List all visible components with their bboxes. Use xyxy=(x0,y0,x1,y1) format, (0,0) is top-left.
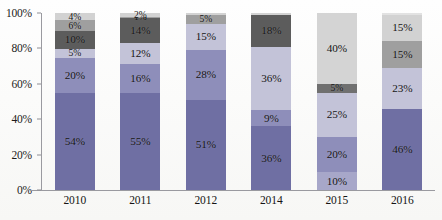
y-tick-mark xyxy=(37,154,41,155)
bar-stack: 51%28%15%5% xyxy=(186,13,226,190)
bar-segment-label: 12% xyxy=(130,48,150,59)
y-tick-label: 40% xyxy=(12,113,32,125)
bar-segment[interactable]: 54% xyxy=(55,93,95,190)
bar-segment[interactable]: 25% xyxy=(317,93,357,137)
y-tick-mark xyxy=(37,83,41,84)
y-tick-mark xyxy=(37,190,41,191)
bar-segment-label: 36% xyxy=(261,73,281,84)
y-tick-mark xyxy=(37,119,41,120)
bar-segment[interactable]: 15% xyxy=(382,41,422,68)
bar-segment[interactable]: 23% xyxy=(382,68,422,109)
bar-segment[interactable]: 9% xyxy=(251,110,291,126)
bar-column[interactable]: 54%20%5%10%6%4% xyxy=(55,13,95,190)
stacked-bar-chart: 0%20%40%60%80%100% 54%20%5%10%6%4%55%16%… xyxy=(0,0,442,220)
bar-segment-label: 20% xyxy=(65,70,85,81)
bar-segment-label: 55% xyxy=(130,136,150,147)
x-tick-label-2016: 2016 xyxy=(370,194,436,206)
x-tick-label-2014: 2014 xyxy=(239,194,305,206)
bar-segment-label: 14% xyxy=(130,25,150,36)
bar-stack: 55%16%12%14%1%2% xyxy=(120,13,160,190)
bar-stack: 36%9%36%18% xyxy=(251,13,291,190)
bar-column[interactable]: 55%16%12%14%1%2% xyxy=(120,13,160,190)
bar-segment[interactable]: 40% xyxy=(317,13,357,84)
bar-segment-label: 54% xyxy=(65,136,85,147)
bar-segment[interactable]: 5% xyxy=(55,49,95,58)
y-axis: 0%20%40%60%80%100% xyxy=(0,0,38,220)
x-tick-label-2012: 2012 xyxy=(173,194,239,206)
y-tick-mark xyxy=(37,48,41,49)
bar-segment-label: 5% xyxy=(330,83,343,93)
bar-segment[interactable]: 55% xyxy=(120,93,160,190)
bar-segment-label: 5% xyxy=(199,14,212,24)
bar-stack: 46%23%15%15% xyxy=(382,13,422,190)
bar-segment-label: 5% xyxy=(68,48,81,58)
bar-segment[interactable] xyxy=(382,13,422,15)
bar-segment-label: 28% xyxy=(196,69,216,80)
y-tick-label: 80% xyxy=(12,42,32,54)
bar-segment[interactable]: 28% xyxy=(186,50,226,100)
bar-segment[interactable]: 2% xyxy=(120,13,160,17)
bar-segment[interactable]: 51% xyxy=(186,100,226,190)
bar-segment[interactable]: 10% xyxy=(55,31,95,49)
bar-segment[interactable]: 20% xyxy=(317,137,357,172)
y-tick-label: 100% xyxy=(6,7,32,19)
bar-segment[interactable]: 15% xyxy=(382,15,422,42)
bar-segment[interactable]: 36% xyxy=(251,126,291,190)
bar-segment-label: 36% xyxy=(261,153,281,164)
bar-segment[interactable] xyxy=(251,13,291,15)
bar-segment[interactable] xyxy=(186,13,226,15)
bar-stack: 54%20%5%10%6%4% xyxy=(55,13,95,190)
plot-area: 54%20%5%10%6%4%55%16%12%14%1%2%51%28%15%… xyxy=(42,13,435,190)
bar-segment[interactable]: 15% xyxy=(186,24,226,51)
bar-column[interactable]: 51%28%15%5% xyxy=(186,13,226,190)
bar-segment-label: 46% xyxy=(392,144,412,155)
bar-segment-label: 6% xyxy=(68,21,81,31)
bar-segment[interactable]: 18% xyxy=(251,15,291,47)
bar-segment[interactable]: 4% xyxy=(55,13,95,20)
bar-segment[interactable]: 16% xyxy=(120,64,160,92)
bar-segment-label: 9% xyxy=(264,113,279,124)
bar-segment[interactable]: 5% xyxy=(186,15,226,24)
bar-segment-label: 2% xyxy=(134,10,147,20)
bar-segment-label: 15% xyxy=(392,22,412,33)
bar-segment-label: 15% xyxy=(392,49,412,60)
bar-segment-label: 10% xyxy=(327,176,347,187)
bar-segment-label: 10% xyxy=(65,34,85,45)
y-tick-label: 60% xyxy=(12,78,32,90)
bar-segment-label: 40% xyxy=(327,43,347,54)
bar-column[interactable]: 10%20%25%5%40% xyxy=(317,13,357,190)
bar-segment[interactable]: 10% xyxy=(317,172,357,190)
bar-segment-label: 16% xyxy=(130,73,150,84)
bar-segment[interactable]: 6% xyxy=(55,20,95,31)
y-tick-mark xyxy=(37,13,41,14)
bar-segment-label: 20% xyxy=(327,149,347,160)
bar-segment-label: 18% xyxy=(261,25,281,36)
x-tick-label-2011: 2011 xyxy=(108,194,174,206)
bar-segment[interactable]: 20% xyxy=(55,58,95,94)
bar-segment-label: 15% xyxy=(196,31,216,42)
bar-segment[interactable]: 12% xyxy=(120,43,160,64)
bar-segment[interactable]: 46% xyxy=(382,109,422,190)
bar-stack: 10%20%25%5%40% xyxy=(317,13,357,190)
x-axis: 201020112012201420152016 xyxy=(42,191,435,213)
bar-column[interactable]: 46%23%15%15% xyxy=(382,13,422,190)
bar-column[interactable]: 36%9%36%18% xyxy=(251,13,291,190)
bar-segment-label: 51% xyxy=(196,139,216,150)
x-tick-label-2010: 2010 xyxy=(42,194,108,206)
bar-segment-label: 4% xyxy=(68,12,81,22)
bar-segment-label: 25% xyxy=(327,109,347,120)
bar-segment-label: 23% xyxy=(392,83,412,94)
bar-segment[interactable]: 36% xyxy=(251,47,291,111)
x-tick-label-2015: 2015 xyxy=(304,194,370,206)
bar-segment[interactable]: 5% xyxy=(317,84,357,93)
y-tick-label: 20% xyxy=(12,149,32,161)
